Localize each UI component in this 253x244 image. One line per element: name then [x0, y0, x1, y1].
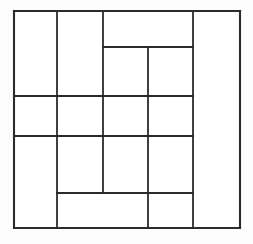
region-right-full [193, 11, 240, 228]
region-col2-tall [57, 11, 103, 96]
partitioned-rectangle-diagram [0, 0, 253, 244]
region-col3-lower [103, 136, 148, 193]
region-col3-mid [103, 96, 148, 136]
region-col3-upper [103, 47, 148, 96]
region-left-mid-upper [14, 96, 57, 136]
region-col2-lower [57, 136, 103, 193]
region-top-wide [103, 11, 193, 47]
region-col4-lower [148, 136, 193, 193]
region-col4-mid [148, 96, 193, 136]
region-col2-mid [57, 96, 103, 136]
regions-layer [14, 11, 240, 228]
region-bottom-wide [57, 193, 148, 228]
region-left-tall [14, 11, 57, 96]
region-col4-upper [148, 47, 193, 96]
region-bottom-right [148, 193, 193, 228]
region-left-bottom-tall [14, 136, 57, 228]
figure-canvas [0, 0, 253, 244]
